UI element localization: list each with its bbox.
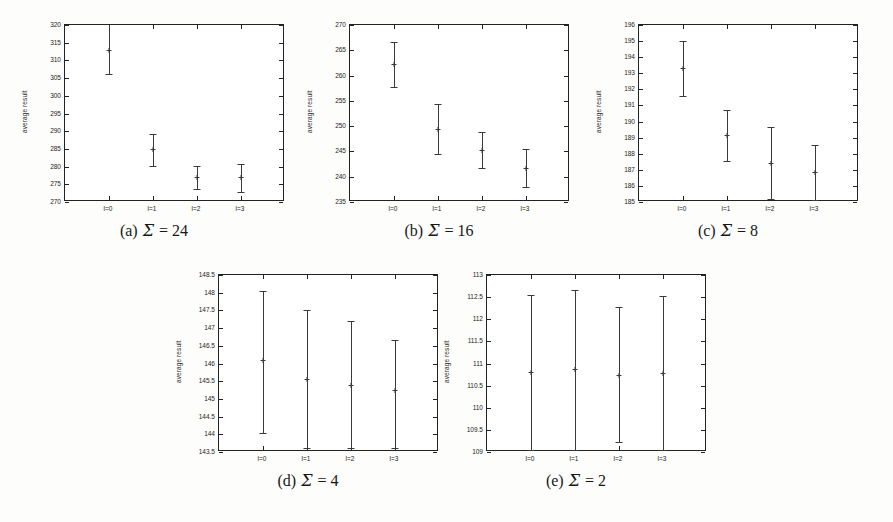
x-tick-mark	[394, 25, 395, 29]
y-tick-label: 191	[624, 101, 635, 108]
x-tick-label: l=0	[389, 205, 398, 212]
y-tick-mark	[219, 381, 223, 382]
figure-sheet: average result27027528028529029530030531…	[0, 0, 893, 522]
error-bar-cap-upper	[768, 127, 775, 128]
y-tick-mark	[487, 386, 491, 387]
x-tick-mark	[526, 196, 527, 200]
y-tick-mark	[639, 25, 643, 26]
plot-frame	[218, 274, 438, 451]
y-tick-mark	[639, 170, 643, 171]
y-tick-mark	[65, 96, 69, 97]
caption-sigma-symbol: Σ	[720, 221, 733, 240]
caption-sigma-symbol: Σ	[568, 471, 581, 490]
y-tick-label: 305	[50, 74, 61, 81]
y-tick-mark	[350, 177, 354, 178]
y-tick-mark	[564, 151, 568, 152]
y-tick-label: 111.5	[468, 337, 483, 344]
caption-value: 8	[750, 222, 758, 239]
error-bar-cap-lower	[392, 448, 399, 449]
x-tick-mark	[438, 25, 439, 29]
error-bar-cap-upper	[150, 134, 157, 135]
y-tick-mark	[564, 76, 568, 77]
y-tick-mark	[65, 25, 69, 26]
y-axis-label: average result	[21, 93, 28, 133]
y-tick-mark	[853, 202, 857, 203]
y-tick-mark	[279, 43, 283, 44]
plot-frame	[349, 24, 569, 201]
y-tick-label: 235	[335, 198, 346, 205]
y-tick-label: 245	[335, 147, 346, 154]
error-bar-cap-lower	[479, 168, 486, 169]
y-tick-mark	[639, 122, 643, 123]
caption-value: 16	[458, 222, 474, 239]
x-tick-mark	[619, 446, 620, 450]
caption-sigma-symbol: Σ	[142, 221, 155, 240]
y-tick-mark	[487, 364, 491, 365]
y-tick-mark	[279, 114, 283, 115]
y-tick-label: 186	[624, 181, 635, 188]
y-tick-mark	[701, 386, 705, 387]
data-point-marker	[438, 127, 439, 132]
x-tick-label: l=3	[236, 205, 245, 212]
y-tick-label: 255	[335, 96, 346, 103]
y-axis-label: average result	[306, 93, 313, 133]
y-tick-mark	[65, 149, 69, 150]
y-tick-label: 240	[335, 172, 346, 179]
x-tick-mark	[482, 25, 483, 29]
y-tick-mark	[639, 154, 643, 155]
data-point-marker	[815, 170, 816, 175]
y-tick-label: 145	[204, 394, 215, 401]
y-tick-mark	[853, 138, 857, 139]
caption-index: (a)	[120, 222, 138, 239]
error-bar-cap-upper	[572, 290, 579, 291]
y-tick-mark	[433, 452, 437, 453]
x-tick-label: l=2	[766, 205, 775, 212]
y-tick-mark	[65, 202, 69, 203]
x-tick-mark	[619, 275, 620, 279]
error-bar-cap-lower	[572, 450, 579, 451]
error-bar-cap-lower	[150, 166, 157, 167]
error-bar-cap-lower	[660, 450, 667, 451]
y-tick-mark	[219, 293, 223, 294]
y-tick-mark	[564, 25, 568, 26]
y-tick-mark	[350, 76, 354, 77]
panel-caption: (d) Σ = 4	[172, 471, 444, 490]
error-bar-cap-lower	[304, 448, 311, 449]
y-tick-mark	[433, 381, 437, 382]
y-tick-mark	[564, 177, 568, 178]
y-tick-label: 144.5	[199, 412, 215, 419]
y-tick-mark	[853, 105, 857, 106]
x-tick-mark	[815, 25, 816, 29]
y-tick-mark	[564, 126, 568, 127]
y-tick-mark	[487, 452, 491, 453]
y-tick-mark	[65, 184, 69, 185]
y-tick-label: 146	[204, 359, 215, 366]
x-tick-mark	[683, 196, 684, 200]
y-tick-mark	[433, 310, 437, 311]
error-bar-cap-upper	[660, 296, 667, 297]
y-tick-label: 295	[50, 109, 61, 116]
x-tick-label: l=3	[658, 455, 667, 462]
data-point-marker	[197, 175, 198, 180]
y-tick-mark	[65, 60, 69, 61]
data-point-marker	[482, 148, 483, 153]
x-tick-label: l=3	[390, 455, 399, 462]
x-tick-mark	[153, 196, 154, 200]
y-tick-label: 185	[624, 198, 635, 205]
y-tick-label: 111	[473, 359, 483, 366]
x-tick-mark	[771, 25, 772, 29]
y-tick-label: 285	[50, 144, 61, 151]
y-tick-mark	[279, 131, 283, 132]
data-point-marker	[241, 175, 242, 180]
y-tick-label: 280	[50, 162, 61, 169]
y-tick-mark	[65, 131, 69, 132]
caption-index: (e)	[546, 472, 564, 489]
error-bar-cap-upper	[260, 291, 267, 292]
y-tick-mark	[279, 167, 283, 168]
y-tick-label: 144	[204, 430, 215, 437]
x-tick-mark	[683, 25, 684, 29]
x-tick-mark	[109, 196, 110, 200]
y-tick-mark	[219, 364, 223, 365]
error-bar-cap-upper	[812, 145, 819, 146]
chart-panel-c: average result18518618718818919019119219…	[592, 18, 864, 243]
